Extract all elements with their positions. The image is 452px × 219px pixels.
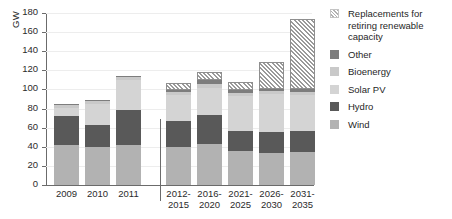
segment-replacements-for-retiring-renewable-capacity — [197, 72, 222, 80]
bar-2012-2015[interactable] — [166, 83, 191, 185]
segment-bioenergy — [197, 84, 222, 88]
segment-wind — [259, 153, 284, 185]
segment-solar-pv — [259, 94, 284, 132]
segment-solar-pv — [166, 95, 191, 121]
segment-replacements-for-retiring-renewable-capacity — [166, 83, 191, 91]
y-tick-label: 120 — [6, 63, 38, 74]
legend-item-solar-pv[interactable]: Solar PV — [330, 84, 452, 96]
segment-other — [54, 104, 79, 105]
bar-2021-2025[interactable] — [228, 82, 253, 185]
segment-replacements-for-retiring-renewable-capacity — [290, 19, 315, 89]
segment-hydro — [259, 132, 284, 152]
segment-wind — [197, 144, 222, 185]
solar-pv-swatch — [330, 85, 339, 94]
legend-item-hydro[interactable]: Hydro — [330, 101, 452, 113]
segment-other — [116, 76, 141, 77]
segment-solar-pv — [85, 104, 110, 125]
wind-swatch — [330, 120, 339, 129]
plot-area: 020406080100120140160180 — [46, 13, 312, 185]
segment-other — [290, 89, 315, 93]
stacked-bar-chart: GW 020406080100120140160180 200920102011… — [0, 0, 452, 219]
segment-wind — [85, 147, 110, 185]
segment-solar-pv — [290, 95, 315, 130]
segment-hydro — [228, 131, 253, 151]
y-tick-label: 20 — [6, 159, 38, 170]
x-label-2012-2015: 2012-2015 — [162, 188, 196, 210]
segment-hydro — [116, 110, 141, 144]
bar-2026-2030[interactable] — [259, 62, 284, 185]
segment-hydro — [166, 121, 191, 147]
bioenergy-swatch — [330, 67, 339, 76]
x-label-2016-2020: 2016-2020 — [193, 188, 227, 210]
segment-bioenergy — [166, 92, 191, 95]
y-tick-label: 0 — [6, 178, 38, 189]
bar-2011[interactable] — [116, 76, 141, 185]
legend-label: Replacements for retiring renewable capa… — [348, 8, 424, 42]
segment-solar-pv — [228, 96, 253, 130]
x-label-2011: 2011 — [112, 188, 146, 199]
segment-wind — [54, 145, 79, 185]
bar-2010[interactable] — [85, 100, 110, 185]
segment-other — [166, 90, 191, 92]
legend-item-replacements-for-retiring-re[interactable]: Replacements for retiring renewable capa… — [330, 8, 452, 43]
y-tick-label: 140 — [6, 44, 38, 55]
legend-label: Hydro — [348, 101, 373, 112]
bar-group — [46, 13, 312, 185]
legend-label: Bioenergy — [348, 66, 391, 77]
segment-other — [228, 90, 253, 93]
bar-2031-2035[interactable] — [290, 19, 315, 185]
legend-item-wind[interactable]: Wind — [330, 119, 452, 131]
y-tick-label: 100 — [6, 82, 38, 93]
x-axis-labels: 2009201020112012-20152016-20202021-20252… — [46, 188, 312, 218]
legend-label: Wind — [348, 119, 370, 130]
legend-item-other[interactable]: Other — [330, 49, 452, 61]
segment-replacements-for-retiring-renewable-capacity — [259, 62, 284, 89]
y-tick-label: 80 — [6, 102, 38, 113]
tick-mark — [42, 185, 46, 186]
bar-2016-2020[interactable] — [197, 72, 222, 185]
y-tick-label: 180 — [6, 6, 38, 17]
segment-hydro — [197, 115, 222, 144]
legend-label: Solar PV — [348, 84, 386, 95]
x-axis-line — [46, 185, 314, 186]
segment-replacements-for-retiring-renewable-capacity — [228, 82, 253, 91]
x-label-2010: 2010 — [81, 188, 115, 199]
segment-bioenergy — [85, 101, 110, 104]
segment-bioenergy — [259, 91, 284, 94]
other-swatch — [330, 50, 339, 59]
y-tick-label: 160 — [6, 25, 38, 36]
segment-solar-pv — [116, 80, 141, 111]
segment-bioenergy — [290, 92, 315, 95]
x-label-2031-2035: 2031-2035 — [286, 188, 320, 210]
segment-wind — [228, 151, 253, 185]
legend-item-bioenergy[interactable]: Bioenergy — [330, 66, 452, 78]
y-tick-label: 40 — [6, 140, 38, 151]
segment-other — [197, 80, 222, 84]
segment-other — [259, 89, 284, 92]
segment-bioenergy — [228, 93, 253, 96]
bar-2009[interactable] — [54, 104, 79, 185]
segment-hydro — [85, 125, 110, 147]
segment-bioenergy — [116, 77, 141, 80]
y-tick-label: 60 — [6, 121, 38, 132]
segment-solar-pv — [54, 108, 79, 117]
segment-bioenergy — [54, 105, 79, 108]
segment-hydro — [290, 131, 315, 152]
segment-wind — [166, 147, 191, 185]
segment-hydro — [54, 116, 79, 145]
x-label-2009: 2009 — [50, 188, 84, 199]
segment-wind — [290, 152, 315, 185]
x-label-2026-2030: 2026-2030 — [255, 188, 289, 210]
segment-other — [85, 100, 110, 101]
segment-wind — [116, 145, 141, 185]
hydro-swatch — [330, 102, 339, 111]
legend-label: Other — [348, 49, 372, 60]
hatch-swatch — [330, 9, 339, 18]
segment-solar-pv — [197, 88, 222, 116]
legend: Replacements for retiring renewable capa… — [330, 8, 452, 136]
group-separator — [160, 119, 161, 185]
x-label-2021-2025: 2021-2025 — [224, 188, 258, 210]
